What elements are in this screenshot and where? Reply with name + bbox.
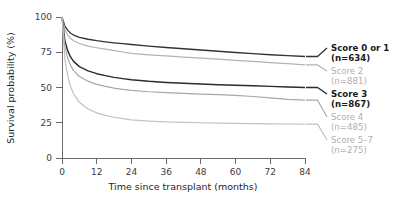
series-label-3: Score 3(n=867): [331, 89, 370, 109]
y-axis-tick-labels: 1007550250: [35, 12, 52, 163]
km-curves-group: [62, 17, 305, 124]
x-tick-label: 12: [91, 167, 102, 177]
x-axis-ticks: [62, 158, 305, 164]
series-label-count: (n=634): [331, 53, 389, 63]
y-tick-label: 25: [41, 118, 52, 128]
series-label-5: Score 5–7(n=275): [331, 135, 373, 155]
x-tick-label: 36: [160, 167, 172, 177]
x-tick-label: 24: [126, 167, 138, 177]
leader-line-2: [306, 65, 327, 71]
series-label-name: Score 5–7: [331, 135, 373, 145]
km-curve-3: [62, 17, 305, 88]
series-label-count: (n=485): [331, 122, 367, 132]
x-tick-label: 48: [195, 167, 207, 177]
series-label-name: Score 4: [331, 112, 367, 122]
series-label-name: Score 2: [331, 66, 367, 76]
series-label-name: Score 0 or 1: [331, 43, 389, 53]
km-curve-1: [62, 17, 305, 56]
y-tick-label: 50: [41, 83, 53, 93]
series-label-name: Score 3: [331, 89, 370, 99]
series-label-2: Score 2(n=881): [331, 66, 367, 86]
series-label-count: (n=881): [331, 76, 367, 86]
x-axis-group: 012243648607284: [59, 158, 311, 177]
x-tick-label: 60: [230, 167, 242, 177]
series-label-count: (n=867): [331, 99, 370, 109]
label-leader-lines: [306, 48, 327, 140]
y-axis-ticks: [56, 17, 62, 158]
leader-line-3: [306, 88, 327, 95]
leader-line-5: [306, 124, 327, 140]
leader-line-4: [306, 100, 327, 117]
series-label-4: Score 4(n=485): [331, 112, 367, 132]
y-tick-label: 75: [41, 47, 52, 57]
y-axis-group: 1007550250: [35, 12, 62, 163]
km-curve-4: [62, 17, 305, 100]
x-axis-tick-labels: 012243648607284: [59, 167, 311, 177]
km-curve-5: [62, 17, 305, 124]
y-axis-title: Survival probability (%): [5, 32, 16, 143]
survival-chart-figure: 1007550250 012243648607284 Time since tr…: [0, 0, 406, 212]
y-tick-label: 100: [35, 12, 52, 22]
x-axis-title: Time since transplant (months): [108, 181, 258, 192]
x-tick-label: 0: [59, 167, 65, 177]
y-tick-label: 0: [46, 153, 52, 163]
leader-line-1: [306, 48, 327, 56]
x-tick-label: 84: [299, 167, 311, 177]
series-label-count: (n=275): [331, 145, 373, 155]
series-label-1: Score 0 or 1(n=634): [331, 43, 389, 63]
x-tick-label: 72: [265, 167, 276, 177]
